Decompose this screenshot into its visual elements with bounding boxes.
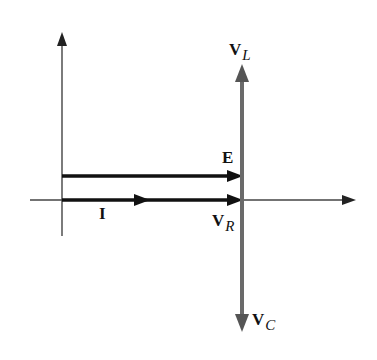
phasor-diagram-canvas [0, 0, 377, 360]
vr-label: VR [212, 211, 234, 231]
e-label: E [222, 148, 233, 168]
vertical-axis [57, 32, 67, 236]
i-phasor-arrow [62, 194, 230, 206]
vc-label: VC [252, 310, 275, 330]
vl-label: VL [229, 40, 251, 60]
i-label: I [99, 204, 106, 224]
e-phasor-arrow [62, 170, 243, 182]
